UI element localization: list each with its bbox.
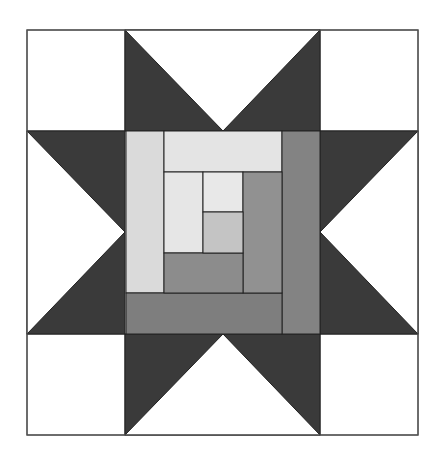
quilt-block bbox=[0, 0, 440, 453]
star-point-bottom bbox=[125, 334, 320, 435]
log-center-square bbox=[203, 212, 243, 253]
log-right-outer bbox=[282, 131, 320, 334]
log-cabin-center bbox=[126, 131, 320, 334]
star-point-left bbox=[27, 131, 125, 334]
corner-top-left bbox=[27, 30, 125, 131]
log-bottom-outer bbox=[126, 293, 282, 334]
corner-bottom-left bbox=[27, 334, 125, 435]
log-bottom-inner bbox=[164, 253, 243, 293]
log-top-outer bbox=[164, 131, 282, 172]
log-left-outer bbox=[126, 131, 164, 293]
star-point-top bbox=[125, 30, 320, 131]
corner-bottom-right bbox=[320, 334, 418, 435]
log-top-inner bbox=[203, 172, 243, 212]
log-left-inner bbox=[164, 172, 203, 253]
corner-top-right bbox=[320, 30, 418, 131]
log-right-inner bbox=[243, 172, 282, 293]
star-point-right bbox=[320, 131, 418, 334]
